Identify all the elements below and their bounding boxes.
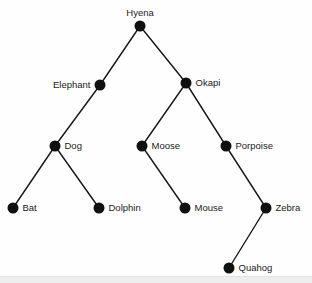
tree-edge [142, 83, 186, 146]
tree-edge [55, 146, 99, 208]
node-label-mouse: Mouse [195, 203, 224, 213]
tree-edge [226, 146, 266, 208]
tree-edge [55, 85, 100, 146]
tree-diagram-canvas: HyenaElephantOkapiDogMoosePorpoiseBatDol… [0, 0, 312, 283]
node-label-zebra: Zebra [276, 203, 301, 213]
node-label-okapi: Okapi [196, 78, 221, 88]
tree-node-dolphin[interactable] [94, 203, 105, 214]
tree-node-hyena[interactable] [135, 21, 146, 32]
tree-edge [140, 26, 186, 83]
tree-edge [13, 146, 55, 208]
node-label-moose: Moose [152, 141, 181, 151]
node-label-bat: Bat [23, 203, 37, 213]
tree-edge [186, 83, 226, 146]
tree-node-quahog[interactable] [224, 263, 235, 274]
tree-node-okapi[interactable] [181, 78, 192, 89]
node-label-elephant: Elephant [53, 80, 91, 90]
tree-node-zebra[interactable] [261, 203, 272, 214]
tree-edge [100, 26, 140, 85]
tree-node-moose[interactable] [137, 141, 148, 152]
tree-edge [229, 208, 266, 268]
tree-node-porpoise[interactable] [221, 141, 232, 152]
node-label-dolphin: Dolphin [109, 203, 141, 213]
node-label-dog: Dog [65, 141, 82, 151]
tree-node-dog[interactable] [50, 141, 61, 152]
tree-node-bat[interactable] [8, 203, 19, 214]
tree-node-elephant[interactable] [95, 80, 106, 91]
tree-node-mouse[interactable] [180, 203, 191, 214]
node-label-hyena: Hyena [126, 7, 153, 17]
nodes-group [8, 21, 272, 274]
tree-edge [142, 146, 185, 208]
bottom-strip [0, 276, 312, 283]
node-label-quahog: Quahog [239, 263, 273, 273]
node-label-porpoise: Porpoise [236, 141, 274, 151]
